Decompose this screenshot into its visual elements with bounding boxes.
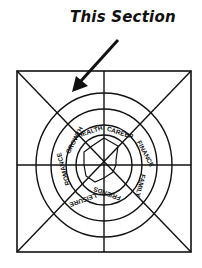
segment-label: CAREER [106,125,135,140]
wheel-diagram: HEALTH CAREER FINANCE FAMILY FRIENDS LEI… [0,0,202,268]
arrow-icon [72,40,118,92]
segment-label: ROMANCE [55,151,71,186]
